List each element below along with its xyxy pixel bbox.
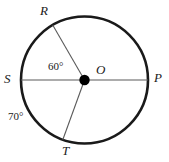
point-label-o: O — [96, 63, 105, 76]
radius-segment-ot — [63, 80, 85, 140]
point-label-t: T — [62, 144, 69, 157]
angle-label-ros: 60° — [48, 61, 63, 72]
point-label-p: P — [154, 71, 162, 84]
point-label-r: R — [40, 4, 48, 17]
center-point-dot — [79, 75, 89, 85]
angle-label-sot: 70° — [8, 111, 23, 122]
circle-diagram-svg — [0, 0, 169, 162]
geometry-figure: R S O P T 60° 70° — [0, 0, 169, 162]
point-label-s: S — [4, 72, 11, 85]
